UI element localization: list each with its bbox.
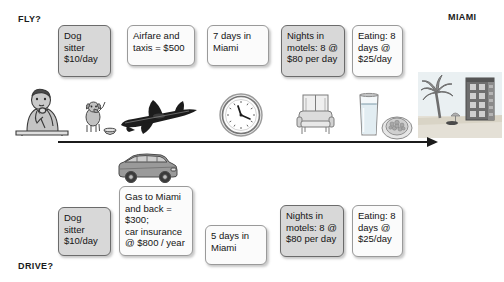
box-line: $300; (125, 214, 187, 226)
person-thinking-icon (14, 88, 70, 136)
miami-beach-building-icon (418, 72, 502, 138)
box-line: @ $800 / year (125, 237, 187, 249)
box-line: days @ (358, 222, 397, 234)
food-plate-icon (381, 114, 413, 140)
box-line: motels: 8 @ (286, 222, 338, 234)
fly-eating-box[interactable]: Eating: 8 days @ $25/day (352, 25, 403, 77)
fly-dog-sitter-box[interactable]: Dog sitter $10/day (58, 25, 111, 77)
box-line: $80 per day (287, 53, 339, 65)
drive-motels-box[interactable]: Nights in motels: 8 @ $80 per day (280, 205, 344, 257)
box-line: $25/day (358, 53, 397, 65)
clock-icon (218, 92, 264, 138)
box-line: sitter (64, 42, 105, 54)
fly-days-in-miami-box[interactable]: 7 days in Miami (207, 25, 269, 66)
box-line: Miami (213, 42, 263, 54)
box-line: $10/day (64, 53, 105, 65)
box-line: taxis = $500 (133, 42, 189, 54)
drive-days-in-miami-box[interactable]: 5 days in Miami (205, 225, 267, 265)
box-line: days @ (358, 42, 397, 54)
timeline-arrow-head (427, 137, 438, 147)
box-line: Dog (64, 212, 105, 224)
box-line: $80 per day (286, 233, 338, 245)
box-line: Miami (211, 242, 261, 254)
box-line: Gas to Miami (125, 191, 187, 203)
box-line: $25/day (358, 233, 397, 245)
box-line: motels: 8 @ (287, 42, 339, 54)
drive-dog-sitter-box[interactable]: Dog sitter $10/day (58, 207, 111, 256)
box-line: $10/day (64, 235, 105, 247)
timeline-arrow-line (58, 141, 428, 143)
fly-motels-box[interactable]: Nights in motels: 8 @ $80 per day (281, 25, 345, 77)
box-line: car insurance (125, 226, 187, 238)
box-line: Dog (64, 30, 105, 42)
airplane-icon (119, 96, 199, 136)
drive-row-label: DRIVE? (18, 261, 53, 271)
suv-car-icon (111, 152, 181, 186)
fly-row-label: FLY? (18, 14, 41, 24)
destination-label: MIAMI (448, 12, 477, 22)
dog-with-bowl-icon (80, 100, 122, 136)
box-line: Nights in (286, 210, 338, 222)
box-line: Eating: 8 (358, 30, 397, 42)
box-line: Nights in (287, 30, 339, 42)
box-line: Airfare and (133, 30, 189, 42)
drive-gas-insurance-box[interactable]: Gas to Miami and back = $300; car insura… (119, 186, 193, 256)
box-line: and back = (125, 203, 187, 215)
drive-eating-box[interactable]: Eating: 8 days @ $25/day (352, 205, 403, 257)
fly-airfare-box[interactable]: Airfare and taxis = $500 (127, 25, 195, 66)
diagram-canvas: FLY? DRIVE? MIAMI Dog sitter $10/day Air… (0, 0, 504, 282)
box-line: Eating: 8 (358, 210, 397, 222)
box-line: sitter (64, 224, 105, 236)
box-line: 7 days in (213, 30, 263, 42)
box-line: 5 days in (211, 230, 261, 242)
glass-of-water-icon (355, 92, 383, 138)
sofa-icon (293, 93, 337, 137)
